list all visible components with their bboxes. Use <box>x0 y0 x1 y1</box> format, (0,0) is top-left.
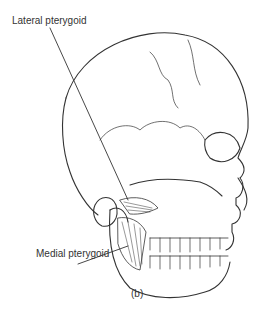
label-medial-pterygoid: Medial pterygoid <box>36 248 109 259</box>
panel-label: (b) <box>131 288 143 299</box>
label-lateral-pterygoid: Lateral pterygoid <box>12 15 87 26</box>
skull-illustration <box>0 0 271 313</box>
skull-diagram: Lateral pterygoid Medial pterygoid (b) <box>0 0 271 313</box>
